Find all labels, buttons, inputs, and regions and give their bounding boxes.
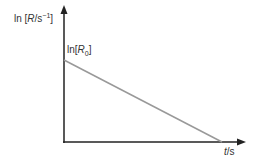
intercept-label: ln[R0] [67, 44, 91, 57]
x-axis-label: t/s [224, 146, 235, 157]
intercept-close: ] [89, 44, 92, 55]
x-axis-arrow-icon [237, 139, 246, 146]
intercept-var: R [78, 44, 85, 55]
intercept-prefix: ln[ [67, 44, 78, 55]
y-label-prefix: ln [ [14, 13, 27, 24]
y-axis-arrow-icon [61, 5, 68, 14]
data-line [64, 60, 222, 142]
y-label-close: ] [50, 13, 53, 24]
y-label-var: R [27, 13, 34, 24]
x-label-suffix: /s [227, 146, 235, 157]
y-axis-label: ln [R/s−1] [14, 12, 53, 24]
